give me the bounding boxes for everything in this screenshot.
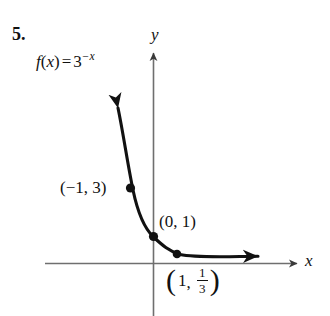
fraction-close-paren: ) xyxy=(210,267,220,293)
point-1-one-third xyxy=(173,250,182,259)
point-neg1-3 xyxy=(126,183,135,192)
function-base: 3 xyxy=(73,52,82,71)
exponential-function-figure: 5. xyxy=(0,0,330,316)
function-close-paren: ) xyxy=(54,52,60,71)
fraction-comma: , xyxy=(187,274,195,291)
point-label-neg1-3: (−1, 3) xyxy=(60,179,106,196)
y-axis-label: y xyxy=(151,26,159,43)
point-label-0-1: (0, 1) xyxy=(159,213,196,230)
fraction-open-paren: ( xyxy=(166,267,176,293)
function-curve xyxy=(118,108,258,257)
fraction-x-value: 1 xyxy=(176,272,187,289)
function-equation-label: f(x)=3−x xyxy=(36,53,95,70)
point-0-1 xyxy=(149,232,158,241)
function-variable: x xyxy=(46,52,54,71)
x-axis-label: x xyxy=(305,252,313,269)
fraction-one-third: 1 3 xyxy=(195,266,210,296)
function-exponent: −x xyxy=(82,50,95,63)
equals-sign: = xyxy=(60,52,74,71)
fraction-denominator: 3 xyxy=(198,282,207,295)
graph-canvas xyxy=(0,0,330,316)
fraction-numerator: 1 xyxy=(198,266,207,279)
point-label-1-one-third: ( 1 , 1 3 ) xyxy=(166,266,220,296)
